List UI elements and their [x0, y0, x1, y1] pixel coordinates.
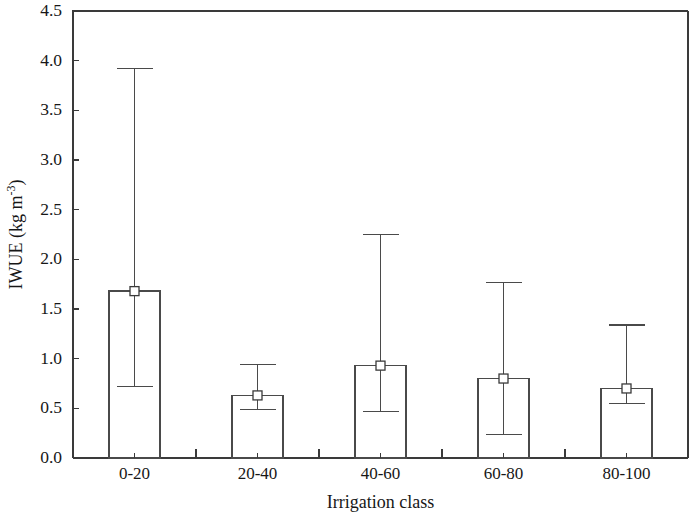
y-tick-label: 2.0 — [40, 248, 62, 268]
x-axis-title: Irrigation class — [327, 492, 434, 512]
x-tick-label: 80-100 — [602, 464, 650, 483]
y-tick-label: 1.0 — [40, 348, 62, 368]
chart-figure: 0.00.51.01.52.02.53.03.54.04.50-2020-404… — [0, 0, 689, 523]
y-tick-label: 4.5 — [40, 0, 62, 20]
mean-marker — [253, 391, 262, 400]
x-tick-label: 0-20 — [119, 464, 150, 483]
y-tick-label: 1.5 — [40, 298, 62, 318]
y-tick-label: 3.5 — [40, 99, 62, 119]
iwue-bar-chart: 0.00.51.01.52.02.53.03.54.04.50-2020-404… — [0, 0, 689, 523]
y-tick-label: 0.0 — [40, 447, 62, 467]
mean-marker — [499, 374, 508, 383]
mean-marker — [622, 384, 631, 393]
bar-group — [601, 325, 652, 458]
bar-group — [355, 235, 406, 459]
y-tick-label: 0.5 — [40, 397, 62, 417]
x-tick-label: 40-60 — [361, 464, 401, 483]
bar-group — [109, 69, 160, 458]
x-tick-label: 20-40 — [238, 464, 278, 483]
y-axis-title: IWUE (kg m-3) — [4, 180, 27, 290]
bar-group — [232, 365, 283, 458]
y-tick-label: 4.0 — [40, 50, 62, 70]
y-tick-label: 2.5 — [40, 199, 62, 219]
mean-marker — [376, 361, 385, 370]
y-tick-label: 3.0 — [40, 149, 62, 169]
mean-marker — [130, 287, 139, 296]
bar-group — [478, 282, 529, 458]
x-tick-label: 60-80 — [484, 464, 524, 483]
